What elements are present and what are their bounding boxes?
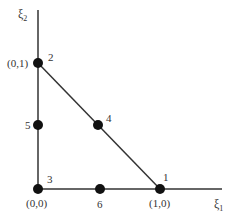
xi1-axis-label: ξ1	[214, 197, 223, 213]
node-3	[33, 184, 43, 194]
node-5-label: 5	[25, 119, 31, 131]
node-3-label: 3	[47, 173, 53, 185]
reference-triangle-diagram: ξ2 ξ1 1 2 3 4 5 6 (0,0) (1,0) (0,1)	[0, 0, 235, 222]
xi2-axis-label: ξ2	[18, 7, 27, 23]
node-1-label: 1	[163, 171, 169, 183]
node-2-label: 2	[48, 51, 54, 63]
node-5	[33, 120, 43, 130]
vertex-label-origin: (0,0)	[26, 197, 47, 210]
vertex-label-x-unit: (1,0)	[149, 197, 170, 210]
node-1	[155, 184, 165, 194]
node-2	[33, 58, 43, 68]
vertex-label-y-unit: (0,1)	[7, 57, 28, 70]
node-6	[95, 184, 105, 194]
node-4-label: 4	[106, 112, 112, 124]
node-6-label: 6	[97, 198, 103, 210]
node-4	[93, 120, 103, 130]
